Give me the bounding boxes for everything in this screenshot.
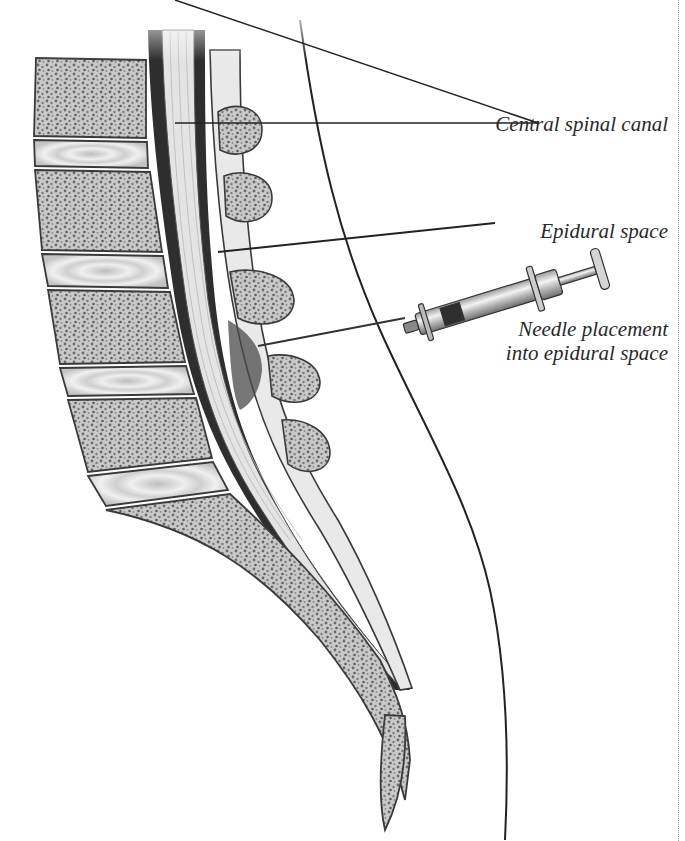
- needle: [258, 318, 405, 346]
- spinous-process-2: [224, 173, 272, 222]
- coccyx: [380, 715, 405, 830]
- spinous-process-1: [218, 106, 262, 153]
- disc-2: [42, 254, 168, 288]
- label-needle-placement: Needle placement into epidural space: [506, 317, 668, 365]
- spinous-process-5: [282, 420, 330, 472]
- label-epidural-space: Epidural space: [540, 219, 668, 243]
- vertebra-3: [48, 290, 185, 364]
- label-needle-placement-line2: into epidural space: [506, 341, 668, 365]
- label-central-spinal-canal: Central spinal canal: [495, 112, 668, 136]
- leader-line-epidural: [218, 223, 495, 252]
- vertebra-1: [34, 58, 146, 138]
- sacrum: [106, 494, 410, 830]
- disc-3: [60, 366, 194, 396]
- disc-1: [34, 140, 148, 168]
- label-needle-placement-line1: Needle placement: [506, 317, 668, 341]
- syringe-plunger-rod: [558, 266, 597, 285]
- vertebra-2: [35, 170, 162, 252]
- spinous-process-3: [230, 270, 294, 324]
- spinous-process-4: [268, 355, 320, 402]
- vertebra-4: [68, 398, 212, 472]
- dotted-page-border: [678, 0, 679, 841]
